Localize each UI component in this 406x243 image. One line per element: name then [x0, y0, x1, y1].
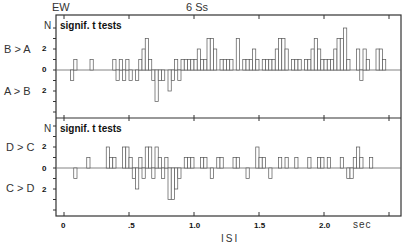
bar — [256, 147, 259, 168]
bar — [184, 60, 187, 71]
bar — [285, 49, 288, 70]
bar — [74, 60, 77, 71]
bar — [210, 168, 213, 179]
bar — [188, 158, 191, 169]
bar — [175, 60, 178, 71]
bar — [282, 39, 285, 71]
bar — [168, 70, 171, 91]
bar — [305, 60, 308, 71]
bar — [197, 49, 200, 70]
bar — [178, 168, 181, 179]
bar — [123, 147, 126, 168]
bar — [217, 158, 220, 169]
bar — [194, 60, 197, 71]
bar — [155, 70, 158, 102]
bar — [204, 60, 207, 71]
bar — [272, 60, 275, 71]
bar — [129, 158, 132, 169]
bar — [360, 158, 363, 169]
bar — [266, 60, 269, 71]
bar — [311, 49, 314, 70]
bar — [136, 168, 139, 189]
bar — [298, 60, 301, 71]
bar — [90, 60, 93, 71]
bar — [171, 168, 174, 200]
bar — [71, 70, 74, 81]
bar — [158, 158, 161, 169]
bar — [113, 60, 116, 71]
bar — [155, 147, 158, 168]
bar — [275, 49, 278, 70]
bar — [136, 70, 139, 81]
bar — [357, 49, 360, 70]
bar — [184, 158, 187, 169]
bar — [123, 70, 126, 81]
bar — [142, 49, 145, 70]
bar — [308, 60, 311, 71]
bar — [350, 168, 353, 179]
bar — [327, 158, 330, 169]
bar — [331, 60, 334, 71]
bar — [178, 70, 181, 81]
bar — [74, 168, 77, 179]
bar — [149, 147, 152, 168]
bar — [126, 60, 129, 71]
bar — [220, 158, 223, 169]
bar — [262, 158, 265, 169]
bar — [253, 49, 256, 70]
bar — [204, 158, 207, 169]
bar — [370, 158, 373, 169]
bar — [347, 60, 350, 71]
bar — [308, 158, 311, 169]
bar — [314, 39, 317, 71]
bar — [236, 39, 239, 71]
bar — [87, 158, 90, 169]
bar — [340, 158, 343, 169]
bar — [269, 60, 272, 71]
bar — [119, 60, 122, 71]
bar — [152, 168, 155, 179]
bar — [318, 158, 321, 169]
bar — [113, 158, 116, 169]
bar — [214, 49, 217, 70]
bar — [201, 158, 204, 169]
bar — [162, 168, 165, 179]
bar — [363, 49, 366, 70]
bar — [106, 147, 109, 168]
bar — [279, 158, 282, 169]
bar — [340, 39, 343, 71]
bar — [318, 49, 321, 70]
bar — [191, 60, 194, 71]
bar — [171, 70, 174, 81]
bar — [132, 168, 135, 179]
bar — [357, 147, 360, 168]
bar — [145, 147, 148, 168]
bar — [246, 168, 249, 179]
bar — [201, 60, 204, 71]
bar — [379, 49, 382, 70]
bar — [256, 60, 259, 71]
bar — [236, 158, 239, 169]
bar — [376, 49, 379, 70]
bar — [116, 70, 119, 81]
bar — [210, 39, 213, 71]
chart-plot — [0, 0, 406, 243]
bar — [139, 158, 142, 169]
bar — [269, 168, 272, 179]
bar — [175, 168, 178, 189]
bar — [230, 60, 233, 71]
bar — [188, 60, 191, 71]
bar — [334, 49, 337, 70]
plot-frame — [56, 15, 401, 216]
bar — [353, 158, 356, 169]
bar — [126, 147, 129, 168]
bar — [129, 70, 132, 81]
bar — [295, 158, 298, 169]
bar — [207, 39, 210, 71]
bar — [191, 158, 194, 169]
bar — [262, 60, 265, 71]
bar — [344, 28, 347, 70]
bar — [162, 70, 165, 81]
bar — [168, 168, 171, 200]
bar — [233, 158, 236, 169]
